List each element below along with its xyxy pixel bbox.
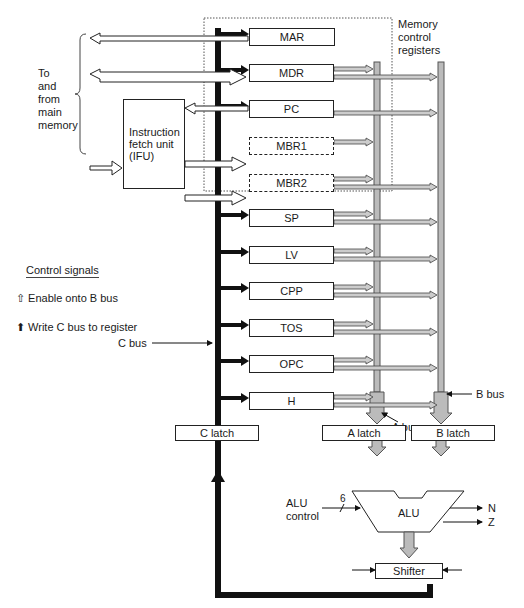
register-mar: MAR: [249, 28, 335, 46]
register-pc: PC: [249, 100, 334, 118]
ifu-box: Instruction fetch unit (IFU): [123, 99, 185, 189]
b-bus: [438, 62, 444, 392]
legend-enable: ⇧ Enable onto B bus: [16, 292, 118, 305]
c-bus-label: C bus: [118, 337, 147, 350]
c-bus: [215, 28, 221, 598]
solid-arrow-up-icon: ⬆: [16, 321, 25, 333]
register-sp: SP: [249, 209, 334, 227]
register-mbr2: MBR2: [249, 174, 334, 192]
b-bus-label: B bus: [476, 388, 504, 401]
hollow-arrow-up-icon: ⇧: [16, 292, 25, 304]
legend-write: ⬆ Write C bus to register: [16, 321, 137, 334]
b-latch: B latch: [411, 425, 495, 441]
alu-control-label: ALU control: [286, 497, 319, 523]
alu-control-width: 6: [340, 492, 346, 505]
c-latch: C latch: [175, 425, 259, 441]
register-h: H: [249, 392, 334, 410]
legend-title: Control signals: [26, 264, 99, 278]
register-tos: TOS: [249, 319, 334, 337]
register-cpp: CPP: [249, 282, 334, 300]
to-from-memory-label: To and from main memory: [38, 67, 78, 132]
alu-label: ALU: [398, 507, 419, 520]
register-lv: LV: [249, 246, 334, 264]
flag-n: N: [488, 502, 496, 515]
register-opc: OPC: [249, 355, 334, 373]
register-mdr: MDR: [249, 64, 334, 82]
shifter: Shifter: [375, 563, 443, 579]
memory-control-label: Memory control registers: [398, 18, 440, 57]
a-latch: A latch: [322, 425, 406, 441]
flag-z: Z: [488, 516, 495, 529]
register-mbr1: MBR1: [249, 137, 334, 155]
